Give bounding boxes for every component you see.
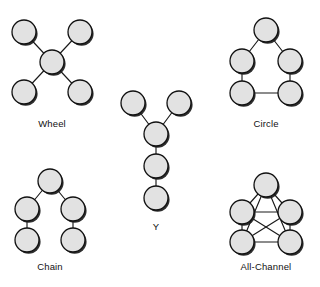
nodes-group (15, 169, 87, 254)
node-ch-mid-left[interactable] (15, 197, 39, 221)
node-w-center[interactable] (40, 50, 64, 74)
node-y-middle[interactable] (144, 154, 168, 178)
node-ch-bottom-right[interactable] (61, 228, 85, 252)
nodes-group (121, 91, 193, 212)
node-c-mid-right[interactable] (278, 49, 302, 73)
network-label-wheel: Wheel (38, 118, 66, 129)
node-y-top-left[interactable] (121, 91, 145, 115)
node-c-bottom-right[interactable] (278, 81, 302, 105)
node-w-top-left[interactable] (12, 20, 36, 44)
network-label-y: Y (153, 221, 160, 232)
node-a-mid-right[interactable] (278, 200, 302, 224)
node-c-mid-left[interactable] (230, 49, 254, 73)
network-y: Y (121, 91, 193, 232)
node-a-apex[interactable] (254, 173, 278, 197)
node-ch-bottom-left[interactable] (15, 228, 39, 252)
network-patterns-diagram: WheelCircleYChainAll-Channel (0, 0, 320, 287)
nodes-group (230, 173, 304, 256)
node-c-bottom-left[interactable] (230, 81, 254, 105)
node-y-top-right[interactable] (167, 91, 191, 115)
node-w-bottom-left[interactable] (12, 80, 36, 104)
node-ch-mid-right[interactable] (61, 197, 85, 221)
node-w-top-right[interactable] (68, 20, 92, 44)
node-y-bottom[interactable] (144, 186, 168, 210)
network-all-channel: All-Channel (230, 173, 304, 272)
edges-group (133, 103, 179, 198)
node-a-bottom-right[interactable] (278, 230, 302, 254)
node-w-bottom-right[interactable] (68, 80, 92, 104)
network-label-all-channel: All-Channel (241, 261, 292, 272)
network-label-circle: Circle (253, 118, 278, 129)
node-a-mid-left[interactable] (230, 200, 254, 224)
network-label-chain: Chain (37, 261, 63, 272)
network-circle: Circle (230, 18, 304, 129)
node-c-apex[interactable] (254, 18, 278, 42)
node-ch-top[interactable] (38, 169, 62, 193)
node-a-bottom-left[interactable] (230, 230, 254, 254)
node-y-junction[interactable] (144, 122, 168, 146)
network-wheel: Wheel (12, 20, 94, 129)
nodes-group (12, 20, 94, 106)
network-chain: Chain (15, 169, 87, 272)
